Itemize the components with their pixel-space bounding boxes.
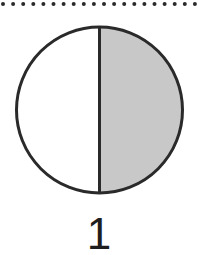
- circle-right-half-shaded: [100, 27, 183, 193]
- circle-left-half-unshaded: [16, 27, 99, 193]
- fraction-circle: [0, 0, 198, 210]
- figure-label: 1: [0, 212, 198, 255]
